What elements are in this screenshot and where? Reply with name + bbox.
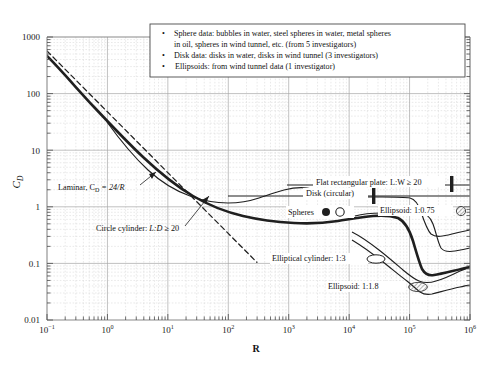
- annotation-ellipsoid-118-label: Ellipsoid: 1:1.8: [328, 282, 379, 291]
- drag-coefficient-chart: 10−1100101102103104105106 10001001010.10…: [0, 0, 494, 367]
- y-tick-label: 0.1: [29, 259, 40, 269]
- y-tick-label: 10: [31, 146, 41, 156]
- annotation-ellipsoid-075-label: Ellipsoid: 1:0.75: [380, 206, 435, 215]
- sphere-open-marker: [336, 208, 344, 216]
- annotation-spheres-label: Spheres: [288, 208, 314, 217]
- disk-marker: [372, 188, 375, 204]
- legend-box: • Sphere data: bubbles in water, steel s…: [150, 24, 465, 77]
- elliptical-cylinder-marker: [367, 255, 385, 263]
- legend-bullet-1: •: [162, 29, 165, 38]
- annotation-laminar-label: Laminar, CD = 24/R: [58, 183, 124, 193]
- ellipsoid-075-marker: [456, 206, 465, 215]
- x-axis-label: R: [252, 343, 260, 354]
- chart-svg: 10−1100101102103104105106 10001001010.10…: [0, 0, 494, 367]
- annotation-circle-cylinder-label: Circle cylinder: L:D ≥ 20: [96, 224, 179, 233]
- legend-bullet-3: •: [162, 62, 165, 71]
- y-tick-label: 0.01: [24, 315, 40, 325]
- sphere-filled-marker: [322, 208, 330, 216]
- annotation-flat-plate-label: Flat rectangular plate: L:W ≥ 20: [316, 178, 422, 187]
- annotation-elliptical-cylinder: Elliptical cylinder: 1:3: [270, 253, 385, 264]
- annotation-elliptical-cylinder-label: Elliptical cylinder: 1:3: [272, 254, 346, 263]
- annotation-ellipsoid-075: Ellipsoid: 1:0.75: [378, 205, 466, 216]
- flat-plate-marker: [450, 176, 453, 192]
- y-tick-label: 100: [27, 89, 41, 99]
- annotation-disk-label: Disk (circular): [306, 189, 354, 198]
- legend-line-2: in oil, spheres in wind tunnel, etc. (fr…: [174, 40, 356, 49]
- annotation-spheres: Spheres: [286, 206, 354, 218]
- y-tick-label: 1: [36, 202, 41, 212]
- y-tick-label: 1000: [22, 32, 41, 42]
- legend-line-1: Sphere data: bubbles in water, steel sph…: [174, 29, 391, 38]
- ellipsoid-118-marker: [409, 282, 428, 291]
- legend-line-3: Disk data: disks in water, disks in wind…: [174, 51, 378, 60]
- legend-bullet-2: •: [162, 51, 165, 60]
- legend-line-4: Ellipsoids: from wind tunnel data (1 inv…: [175, 62, 335, 71]
- y-axis-label-sub: D: [16, 175, 25, 182]
